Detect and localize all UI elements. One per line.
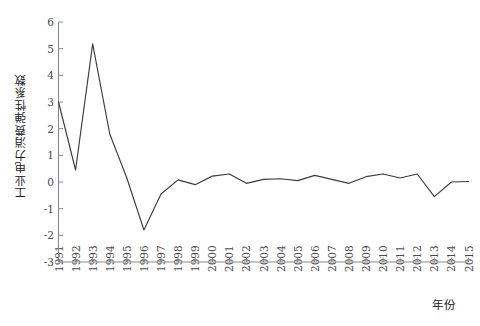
axes-group [59, 22, 469, 262]
plot-area [0, 0, 480, 326]
data-line-series [59, 44, 469, 230]
chart-figure: 工业电力消费弹性系数 6543210-1-2-3 199119921993199… [0, 0, 480, 326]
x-axis-title: 年份 [432, 296, 455, 312]
data-series-group [59, 44, 469, 230]
